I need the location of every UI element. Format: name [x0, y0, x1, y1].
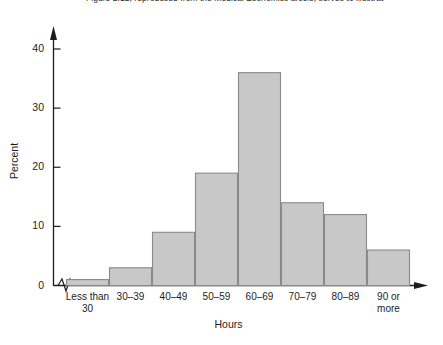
bar-series	[67, 73, 410, 286]
y-tick-label: 20	[18, 160, 44, 172]
x-axis-title-text: Hours	[214, 318, 242, 330]
histogram-figure: 010203040 Less than 3030–3940–4950–5960–…	[0, 0, 443, 345]
y-tick-label: 10	[18, 219, 44, 231]
y-tick-label: 0	[18, 279, 44, 291]
y-tick-label: 30	[18, 101, 44, 113]
histogram-bar	[368, 250, 410, 285]
histogram-bar	[153, 232, 195, 285]
histogram-bar	[67, 280, 109, 286]
histogram-bar	[196, 173, 238, 285]
y-axis	[50, 26, 61, 286]
histogram-bar	[282, 203, 324, 286]
x-category-label: 90 or more	[360, 291, 418, 314]
y-axis-title: Percent	[8, 131, 20, 191]
histogram-bar	[325, 215, 367, 286]
y-tick-label: 40	[18, 42, 44, 54]
histogram-bar	[239, 73, 281, 286]
histogram-bar	[110, 268, 152, 286]
x-axis-title: Hours	[0, 318, 443, 330]
